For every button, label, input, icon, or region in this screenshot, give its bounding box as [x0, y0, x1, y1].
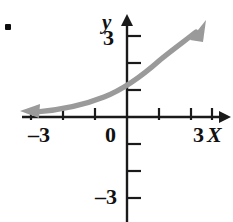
exponential-curve: [36, 32, 196, 112]
x-axis-tick-label-3: 3: [193, 122, 204, 147]
origin-label: 0: [105, 124, 116, 146]
y-axis-arrowhead: [121, 14, 133, 26]
y-axis-tick-label-minus3: –3: [95, 186, 117, 208]
curve-right-arrowhead: [190, 20, 206, 42]
x-axis-label: X: [207, 122, 222, 147]
axes-group: [22, 14, 231, 222]
y-axis-tick-label-3: 3: [103, 27, 114, 49]
x-axis-tick-label-minus3: –3: [28, 124, 50, 146]
x-axis-tick-label-3-with-axis-name: 3X: [193, 124, 222, 146]
